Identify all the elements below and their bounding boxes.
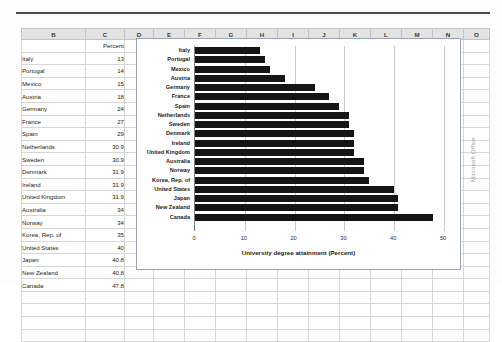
cell-percent-value[interactable]: 40.8 <box>86 254 125 267</box>
cell-empty[interactable] <box>464 228 490 241</box>
cell-empty[interactable] <box>185 279 216 292</box>
cell-country-name[interactable]: Korea, Rep. of <box>22 228 86 241</box>
cell-empty[interactable] <box>433 291 464 304</box>
chart-bar[interactable] <box>195 186 394 193</box>
cell-percent-value[interactable]: 15 <box>86 77 125 90</box>
cell-percent-value[interactable]: 34 <box>86 216 125 229</box>
cell-empty[interactable] <box>278 304 309 317</box>
cell-country-name[interactable]: Netherlands <box>22 140 86 153</box>
cell-empty[interactable] <box>340 291 371 304</box>
cell-empty[interactable] <box>464 178 490 191</box>
column-header-o[interactable]: O <box>464 29 490 40</box>
cell-empty[interactable] <box>433 279 464 292</box>
cell-empty[interactable] <box>464 304 490 317</box>
cell-empty[interactable] <box>154 317 185 330</box>
cell-country-name[interactable]: Austria <box>22 90 86 103</box>
cell-country-name[interactable]: Portugal <box>22 65 86 78</box>
cell-country-name[interactable]: Spain <box>22 128 86 141</box>
chart-bar[interactable] <box>195 158 364 165</box>
cell-percent-value[interactable]: 29 <box>86 128 125 141</box>
cell-empty[interactable] <box>464 102 490 115</box>
cell-empty[interactable] <box>464 279 490 292</box>
cell-empty[interactable] <box>247 291 278 304</box>
cell-empty[interactable] <box>340 304 371 317</box>
cell-empty[interactable] <box>433 329 464 342</box>
column-header-c[interactable]: C <box>86 29 125 40</box>
cell-empty[interactable] <box>125 279 154 292</box>
cell-empty[interactable] <box>154 291 185 304</box>
cell-empty[interactable] <box>125 329 154 342</box>
column-header-b[interactable]: B <box>22 29 86 40</box>
cell-o-header[interactable] <box>464 40 490 53</box>
chart-bar[interactable] <box>195 75 285 82</box>
cell-empty[interactable] <box>464 203 490 216</box>
chart-bar[interactable] <box>195 195 398 202</box>
chart-bar[interactable] <box>195 93 329 100</box>
cell-empty[interactable] <box>125 317 154 330</box>
cell-country-name[interactable]: United States <box>22 241 86 254</box>
cell-empty[interactable] <box>309 317 340 330</box>
cell-empty[interactable] <box>309 304 340 317</box>
cell-empty[interactable] <box>185 329 216 342</box>
cell-empty[interactable] <box>216 329 247 342</box>
cell-empty[interactable] <box>402 317 433 330</box>
cell-empty[interactable] <box>464 317 490 330</box>
cell-percent-value[interactable]: 30.9 <box>86 153 125 166</box>
cell-percent-value[interactable]: 31.9 <box>86 178 125 191</box>
cell-percent-value[interactable]: 31.9 <box>86 191 125 204</box>
cell-empty[interactable] <box>464 266 490 279</box>
chart-bar[interactable] <box>195 214 433 221</box>
cell-country-name[interactable]: Italy <box>22 52 86 65</box>
cell-empty[interactable] <box>464 52 490 65</box>
cell-c-header[interactable]: Percent <box>86 40 125 53</box>
cell-empty[interactable] <box>278 317 309 330</box>
cell-empty[interactable] <box>402 291 433 304</box>
cell-empty[interactable] <box>185 317 216 330</box>
cell-percent-value[interactable]: 24 <box>86 102 125 115</box>
cell-empty[interactable] <box>464 77 490 90</box>
cell-empty[interactable] <box>247 304 278 317</box>
cell-empty[interactable] <box>464 140 490 153</box>
cell-country-name[interactable]: United Kingdom <box>22 191 86 204</box>
cell-empty[interactable] <box>464 329 490 342</box>
cell-empty[interactable] <box>185 291 216 304</box>
cell-empty[interactable] <box>216 317 247 330</box>
cell-empty[interactable] <box>371 291 402 304</box>
chart-bar[interactable] <box>195 112 349 119</box>
cell-empty[interactable] <box>309 291 340 304</box>
cell-country-name[interactable]: Germany <box>22 102 86 115</box>
cell-percent-value[interactable]: 30.9 <box>86 140 125 153</box>
cell-empty[interactable] <box>464 128 490 141</box>
chart-bar[interactable] <box>195 121 349 128</box>
cell-empty[interactable] <box>309 329 340 342</box>
cell-percent-value[interactable]: 27 <box>86 115 125 128</box>
cell-empty[interactable] <box>340 279 371 292</box>
chart-bar[interactable] <box>195 204 398 211</box>
cell-percent-value[interactable]: 13 <box>86 52 125 65</box>
cell-empty[interactable] <box>247 317 278 330</box>
cell-country-name[interactable]: Norway <box>22 216 86 229</box>
cell-b-header[interactable] <box>22 40 86 53</box>
cell-empty[interactable] <box>464 191 490 204</box>
cell-percent-value[interactable]: 14 <box>86 65 125 78</box>
cell-empty[interactable] <box>371 304 402 317</box>
cell-country-name[interactable]: Mexico <box>22 77 86 90</box>
cell-empty[interactable] <box>278 291 309 304</box>
cell-empty[interactable] <box>371 279 402 292</box>
cell-empty[interactable] <box>86 317 125 330</box>
cell-empty[interactable] <box>22 291 86 304</box>
cell-empty[interactable] <box>247 279 278 292</box>
cell-empty[interactable] <box>340 317 371 330</box>
cell-empty[interactable] <box>464 90 490 103</box>
chart-bar[interactable] <box>195 140 354 147</box>
cell-empty[interactable] <box>216 279 247 292</box>
cell-country-name[interactable]: Denmark <box>22 165 86 178</box>
cell-empty[interactable] <box>433 317 464 330</box>
cell-empty[interactable] <box>247 329 278 342</box>
cell-empty[interactable] <box>278 279 309 292</box>
cell-empty[interactable] <box>464 65 490 78</box>
cell-country-name[interactable]: Ireland <box>22 178 86 191</box>
cell-empty[interactable] <box>216 304 247 317</box>
cell-empty[interactable] <box>125 291 154 304</box>
cell-empty[interactable] <box>185 304 216 317</box>
